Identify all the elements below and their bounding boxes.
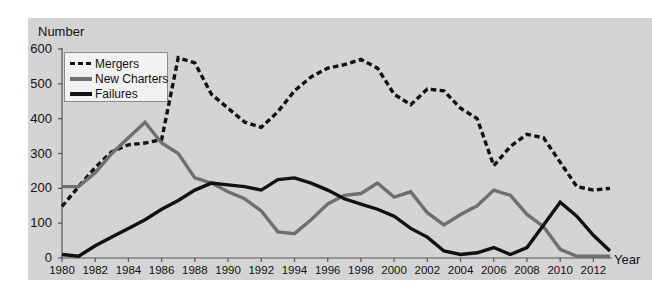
black-line-key-icon [69,86,93,101]
x-tick-label: 2002 [410,264,444,276]
x-tick-label: 2000 [377,264,411,276]
x-tick-label: 2004 [444,264,478,276]
chart-canvas [0,0,652,301]
chart-figure: Number Year 0100200300400500600 19801982… [0,0,652,301]
x-tick-label: 1994 [277,264,311,276]
legend-item-failures: Failures [69,86,163,101]
x-tick-label: 1996 [311,264,345,276]
x-tick-label: 1992 [244,264,278,276]
x-tick-label: 2010 [543,264,577,276]
legend-item-mergers: Mergers [69,56,163,71]
chart-legend: Mergers New Charters Failures [64,52,168,102]
y-tick-label: 200 [18,180,52,195]
y-tick-label: 300 [18,146,52,161]
dashed-line-key-icon [69,56,93,71]
x-tick-label: 2006 [477,264,511,276]
y-tick-label: 100 [18,215,52,230]
y-tick-label: 600 [18,41,52,56]
x-tick-label: 1982 [78,264,112,276]
y-tick-label: 400 [18,111,52,126]
legend-label-new-charters: New Charters [95,72,168,86]
x-tick-label: 2012 [576,264,610,276]
x-tick-label: 2008 [510,264,544,276]
x-tick-label: 1986 [145,264,179,276]
x-tick-label: 1980 [45,264,79,276]
x-tick-label: 1990 [211,264,245,276]
y-tick-label: 0 [18,250,52,265]
legend-label-mergers: Mergers [95,57,139,71]
y-tick-label: 500 [18,76,52,91]
x-tick-label: 1988 [178,264,212,276]
x-tick-label: 1998 [344,264,378,276]
gray-line-key-icon [69,71,93,86]
legend-label-failures: Failures [95,87,138,101]
legend-item-new-charters: New Charters [69,71,163,86]
x-tick-label: 1984 [111,264,145,276]
